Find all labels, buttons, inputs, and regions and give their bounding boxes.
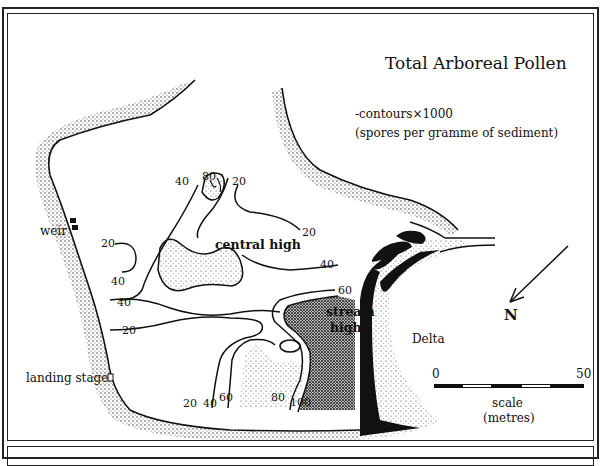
contour-label: 20 (101, 238, 115, 249)
contour-label: 40 (320, 259, 334, 270)
north-arrow-icon (510, 246, 568, 302)
map-title: Total Arboreal Pollen (385, 55, 567, 72)
contour-unit-note: -contours×1000 (355, 108, 453, 120)
contour-label: 20 (122, 325, 136, 336)
units-note: (spores per gramme of sediment) (355, 127, 558, 139)
contour-label: 20 (302, 227, 316, 238)
scale-end-label: 50 (576, 368, 591, 380)
contours (110, 173, 355, 412)
weir-icon (70, 218, 76, 223)
contour-label: 100 (290, 397, 311, 408)
contour-label: 60 (338, 285, 352, 296)
contour-label: 40 (117, 297, 131, 308)
contour-label: 60 (219, 392, 233, 403)
contour-label: 80 (271, 392, 285, 403)
contour-label: 40 (111, 276, 125, 287)
scale-start-label: 0 (432, 368, 440, 380)
stream-high-label-1: stream (326, 306, 375, 319)
scale-label: scale (492, 397, 523, 409)
central-high-label: central high (215, 239, 301, 252)
scale-bar (434, 384, 584, 388)
landing-stage-label: landing stage (26, 372, 108, 384)
weir-label: weir (40, 225, 67, 237)
contour-label: 80 (202, 171, 216, 182)
delta-label: Delta (412, 333, 445, 345)
contour-label: 20 (232, 176, 246, 187)
contour-label: 20 (183, 398, 197, 409)
contour-label: 40 (203, 398, 217, 409)
landing-stage-icon (108, 374, 113, 381)
stream-high-label-2: high (330, 322, 362, 335)
scale-units-label: (metres) (483, 412, 535, 424)
north-label: N (504, 308, 518, 323)
contour-label: 40 (175, 176, 189, 187)
